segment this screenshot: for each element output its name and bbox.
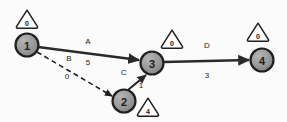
badge-node-2-value: 4 bbox=[146, 108, 150, 115]
node-1-label: 1 bbox=[24, 40, 30, 52]
edge-D-weight: 3 bbox=[205, 71, 210, 80]
nodes-layer: 1 2 3 4 bbox=[16, 34, 274, 113]
edge-C-name: C bbox=[121, 68, 127, 77]
edge-B-line bbox=[37, 52, 112, 96]
node-3-label: 3 bbox=[149, 58, 155, 70]
edge-C-line bbox=[128, 75, 146, 90]
edge-B-name: B bbox=[66, 54, 71, 63]
node-3[interactable]: 3 bbox=[141, 52, 164, 75]
badge-node-4-value: 0 bbox=[256, 33, 260, 40]
graph-svg: A 5 B 0 C 1 D 3 1 bbox=[0, 0, 287, 122]
edge-A-name: A bbox=[85, 37, 91, 46]
edge-B-weight: 0 bbox=[65, 72, 70, 81]
badge-node-1-value: 0 bbox=[25, 20, 29, 27]
badge-node-3[interactable]: 0 bbox=[161, 30, 182, 48]
badge-node-2[interactable]: 4 bbox=[137, 98, 158, 116]
edge-D-line bbox=[164, 60, 249, 62]
badge-node-1[interactable]: 0 bbox=[16, 10, 37, 28]
badge-node-3-value: 0 bbox=[170, 40, 174, 47]
node-4-label: 4 bbox=[259, 55, 266, 67]
diagram-canvas: A 5 B 0 C 1 D 3 1 bbox=[0, 0, 287, 122]
node-4[interactable]: 4 bbox=[251, 49, 274, 72]
edge-C-weight: 1 bbox=[139, 81, 144, 90]
node-2-label: 2 bbox=[121, 96, 127, 108]
edge-A-weight: 5 bbox=[86, 58, 91, 67]
node-2[interactable]: 2 bbox=[113, 90, 136, 113]
badge-node-4[interactable]: 0 bbox=[247, 23, 268, 41]
node-1[interactable]: 1 bbox=[16, 34, 39, 57]
edge-B[interactable]: B 0 bbox=[37, 52, 112, 96]
edge-D-name: D bbox=[204, 41, 210, 50]
